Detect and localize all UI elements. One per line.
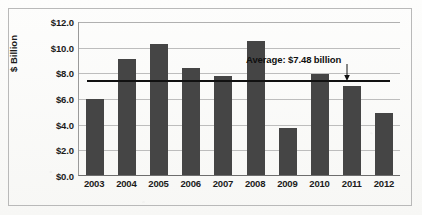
x-axis-tick-label: 2005 — [142, 178, 174, 189]
y-axis-tick-label: $6.0 — [56, 94, 74, 105]
x-axis-tick-label: 2012 — [368, 178, 400, 189]
bar-2005 — [150, 44, 168, 175]
x-axis-tick-labels: 2003200420052006200720082009201020112012 — [78, 178, 400, 194]
bar-series — [79, 22, 400, 175]
x-axis-tick-label: 2009 — [271, 178, 303, 189]
chart-figure: $ Billion $12.0$10.0$8.0$6.0$4.0$2.0$0.0… — [0, 0, 422, 215]
annotation-arrow-icon — [342, 64, 352, 82]
y-axis-tick-label: $2.0 — [56, 145, 74, 156]
plot-area — [78, 22, 400, 176]
x-axis-tick-label: 2004 — [110, 178, 142, 189]
y-axis-title: $ Billion — [8, 35, 19, 72]
y-axis-tick-label: $4.0 — [56, 119, 74, 130]
average-annotation-label: Average: $7.48 billion — [246, 54, 341, 65]
x-axis-tick-label: 2010 — [303, 178, 335, 189]
bar-2003 — [86, 99, 104, 175]
bar-2012 — [375, 113, 393, 175]
bar-2011 — [343, 86, 361, 175]
x-axis-tick-label: 2011 — [336, 178, 368, 189]
bar-2006 — [182, 68, 200, 175]
y-axis-tick-label: $12.0 — [51, 17, 74, 28]
y-axis-tick-label: $10.0 — [51, 42, 74, 53]
bar-2010 — [311, 74, 329, 175]
y-axis-tick-label: $0.0 — [56, 171, 74, 182]
x-axis-tick-label: 2008 — [239, 178, 271, 189]
x-axis-tick-label: 2007 — [207, 178, 239, 189]
y-axis-tick-label: $8.0 — [56, 68, 74, 79]
x-axis-tick-label: 2003 — [78, 178, 110, 189]
bar-2009 — [279, 128, 297, 175]
bar-2007 — [214, 76, 232, 175]
x-axis-tick-label: 2006 — [175, 178, 207, 189]
y-axis-tick-labels: $12.0$10.0$8.0$6.0$4.0$2.0$0.0 — [24, 22, 74, 176]
bar-2004 — [118, 59, 136, 175]
